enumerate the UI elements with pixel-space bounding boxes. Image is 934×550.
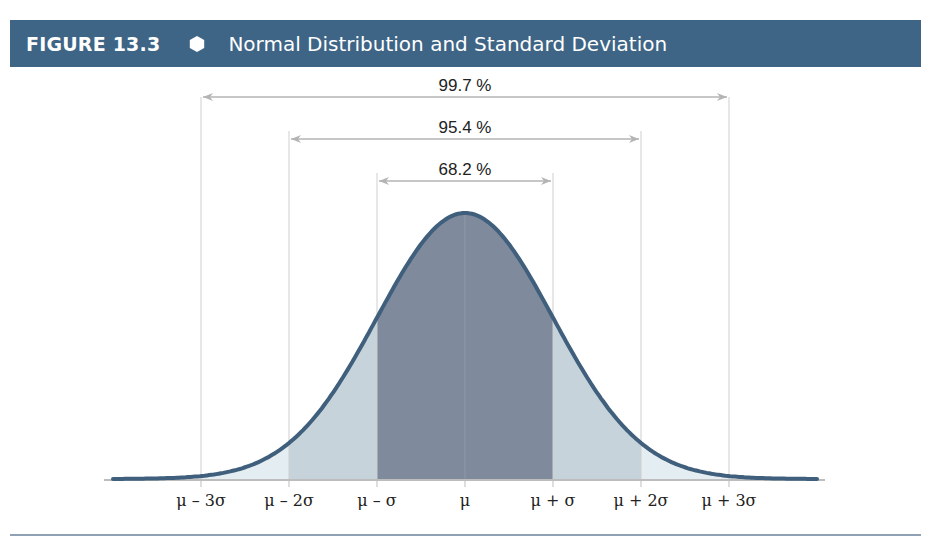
tick-label-mu-plus-sigma: μ + σ bbox=[531, 491, 576, 510]
percent-label-99-7: 99.7 % bbox=[439, 76, 492, 95]
range-arrow-68-2: 68.2 % bbox=[379, 160, 551, 181]
percent-label-68-2: 68.2 % bbox=[439, 160, 492, 179]
x-axis-tick-labels: μ – 3σ μ – 2σ μ – σ μ μ + σ μ + 2σ μ + 3… bbox=[176, 491, 756, 510]
tick-label-mu-plus-2sigma: μ + 2σ bbox=[613, 491, 668, 510]
range-arrow-95-4: 95.4 % bbox=[291, 118, 639, 139]
tick-label-mu: μ bbox=[460, 491, 470, 510]
normal-distribution-chart: 99.7 % 95.4 % 68.2 % μ – 3σ μ – 2σ μ – σ… bbox=[0, 0, 934, 550]
tick-label-mu-minus-sigma: μ – σ bbox=[357, 491, 397, 510]
tick-label-mu-plus-3sigma: μ + 3σ bbox=[701, 491, 756, 510]
x-axis-ticks bbox=[201, 480, 729, 487]
range-arrow-99-7: 99.7 % bbox=[203, 76, 727, 97]
percent-label-95-4: 95.4 % bbox=[439, 118, 492, 137]
tick-label-mu-minus-3sigma: μ – 3σ bbox=[176, 491, 226, 510]
tick-label-mu-minus-2sigma: μ – 2σ bbox=[264, 491, 314, 510]
bottom-divider bbox=[10, 534, 921, 536]
sigma-guide-lines bbox=[201, 97, 729, 479]
